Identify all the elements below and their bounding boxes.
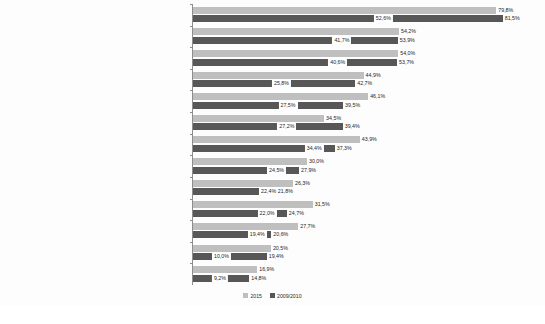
- chart-category-row: Behandlungen und Prozeduren16,9%14,8%9,2…: [193, 263, 535, 285]
- bar-value-label-2015: 26,3%: [293, 180, 310, 187]
- chart-category-row: Vorbereitung von Patienten auf die Entla…: [193, 177, 535, 199]
- bar-series-2015: [193, 50, 398, 57]
- bar-value-label-2015: 34,5%: [324, 115, 341, 122]
- bar-value-label-2009-2010: 21,8%: [276, 188, 293, 195]
- bar-series-2015: [193, 115, 324, 122]
- bar-overlay-value-label: 41,7%: [332, 37, 351, 44]
- axis-tick: [190, 220, 193, 221]
- bar-series-2009-2010: [193, 37, 398, 44]
- bar-value-label-2009-2010: 14,8%: [249, 275, 266, 282]
- axis-tick: [190, 47, 193, 48]
- bar-series-2015: [193, 266, 257, 273]
- bar-value-label-2009-2010: 53,7%: [397, 59, 414, 66]
- bar-overlay-value-label: 40,6%: [328, 59, 347, 66]
- bar-value-label-2009-2010: 27,9%: [299, 167, 316, 174]
- axis-tick: [190, 242, 193, 243]
- axis-tick: [190, 112, 193, 113]
- chart-category-row: Planung der Pflege44,9%42,7%25,8%: [193, 69, 535, 91]
- bar-value-label-2009-2010: 24,7%: [287, 210, 304, 217]
- axis-tick: [190, 134, 193, 135]
- bar-overlay-value-label: 10,0%: [212, 253, 231, 260]
- bar-series-2015: [193, 245, 271, 252]
- chart-category-row: Hautpflege30,0%27,9%24,5%: [193, 155, 535, 177]
- bar-series-2009-2010: [193, 102, 343, 109]
- axis-tick: [190, 199, 193, 200]
- bar-value-label-2015: 79,8%: [496, 7, 513, 14]
- bar-value-label-2009-2010: 39,5%: [343, 102, 360, 109]
- bar-series-2015: [193, 136, 360, 143]
- axis-tick: [190, 263, 193, 264]
- bar-value-label-2015: 46,1%: [368, 93, 385, 100]
- bar-value-label-2015: 54,0%: [398, 50, 415, 57]
- bar-series-2009-2010: [193, 15, 503, 22]
- bar-overlay-value-label: 22,4%: [259, 188, 278, 195]
- bar-overlay-value-label: 27,2%: [277, 123, 296, 130]
- axis-tick: [190, 177, 193, 178]
- axis-tick: [190, 69, 193, 70]
- bar-series-2015: [193, 7, 496, 14]
- bar-value-label-2009-2010: 37,3%: [335, 145, 352, 152]
- chart-category-row: Schmerzmanagement20,5%19,4%10,0%: [193, 242, 535, 264]
- bar-series-2015: [193, 223, 298, 230]
- bar-overlay-value-label: 24,5%: [267, 167, 286, 174]
- bar-overlay-value-label: 19,4%: [248, 231, 267, 238]
- chart-category-row: Adäquate Patientenüberwachung43,9%37,3%3…: [193, 134, 535, 156]
- bar-series-2015: [193, 180, 293, 187]
- chart-legend: 20152009/2010: [0, 292, 545, 299]
- axis-tick: [190, 4, 193, 5]
- bar-value-label-2009-2010: 39,4%: [343, 123, 360, 130]
- footer-whitespace: [0, 305, 545, 324]
- legend-label: 2009/2010: [277, 293, 302, 299]
- chart-category-row: Beratung/Anleitung von Patienten und/ode…: [193, 47, 535, 69]
- bar-series-2009-2010: [193, 123, 343, 130]
- bar-value-label-2009-2010: 19,4%: [267, 253, 284, 260]
- bar-overlay-value-label: 27,5%: [278, 102, 297, 109]
- plot-area: Zeit für Zuwendung/Patientengespräche79,…: [193, 4, 535, 285]
- bar-overlay-value-label: 34,4%: [305, 145, 324, 152]
- axis-tick: [190, 155, 193, 156]
- legend-swatch-icon: [243, 293, 248, 298]
- bar-value-label-2015: 16,9%: [257, 266, 274, 273]
- chart-category-row: Zeit für Zuwendung/Patientengespräche79,…: [193, 4, 535, 26]
- axis-tick: [190, 26, 193, 27]
- bar-overlay-value-label: 22,0%: [258, 210, 277, 217]
- bar-value-label-2015: 31,5%: [313, 201, 330, 208]
- bar-value-label-2009-2010: 53,9%: [398, 37, 415, 44]
- bar-series-2015: [193, 158, 307, 165]
- chart-category-row: Entwicklung/Aktualisierung von Pflegeplä…: [193, 26, 535, 48]
- axis-tick: [190, 90, 193, 91]
- bar-series-2015: [193, 201, 313, 208]
- legend-item: 2009/2010: [270, 292, 302, 299]
- bar-chart: Zeit für Zuwendung/Patientengespräche79,…: [0, 0, 545, 324]
- legend-swatch-icon: [270, 293, 275, 298]
- chart-category-row: Adäquate Dokumentation der Pflegearbeit4…: [193, 90, 535, 112]
- chart-category-row: Mundpflege34,5%39,4%27,2%: [193, 112, 535, 134]
- bar-series-2015: [193, 28, 399, 35]
- bar-value-label-2015: 43,9%: [360, 136, 377, 143]
- bar-series-2015: [193, 93, 368, 100]
- chart-category-row: Zeitgerechte Verabreichung von Medikamen…: [193, 220, 535, 242]
- bar-series-2015: [193, 72, 364, 79]
- bar-value-label-2015: 54,2%: [399, 28, 416, 35]
- bar-value-label-2015: 27,7%: [298, 223, 315, 230]
- bar-overlay-value-label: 25,8%: [272, 80, 291, 87]
- chart-category-row: Regelmäßiges Umlagern von Patienten31,5%…: [193, 199, 535, 221]
- bar-value-label-2009-2010: 42,7%: [355, 80, 372, 87]
- legend-label: 2015: [250, 293, 262, 299]
- bar-value-label-2015: 20,5%: [271, 245, 288, 252]
- bar-value-label-2015: 44,9%: [364, 72, 381, 79]
- bar-value-label-2009-2010: 20,6%: [271, 231, 288, 238]
- legend-item: 2015: [243, 292, 262, 299]
- bar-series-2009-2010: [193, 59, 397, 66]
- bar-value-label-2015: 30,0%: [307, 158, 324, 165]
- bar-value-label-2009-2010: 81,5%: [503, 15, 520, 22]
- bar-overlay-value-label: 52,6%: [374, 15, 393, 22]
- bar-overlay-value-label: 9,2%: [212, 275, 228, 282]
